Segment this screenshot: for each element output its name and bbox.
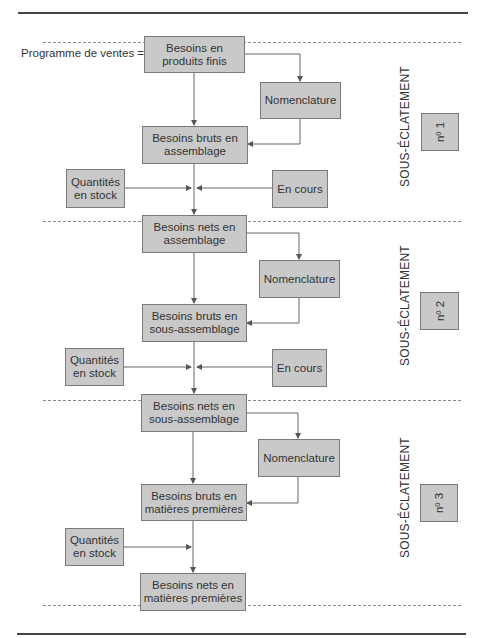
net-raw-materials-needs-box: Besoins nets enmatières premières xyxy=(140,573,246,611)
net-assembly-needs-box: Besoins nets enassemblage xyxy=(142,215,247,253)
in-progress-box-1: En cours xyxy=(272,170,328,208)
sub-explosion-label-3: SOUS-ÉCLATEMENT xyxy=(398,437,412,558)
net-subassembly-needs-box: Besoins nets ensous-assemblage xyxy=(141,394,247,432)
nomenclature-box-1: Nomenclature xyxy=(260,82,341,119)
stock-quantities-box-2: Quantitésen stock xyxy=(65,348,124,386)
gross-raw-materials-needs-box: Besoins bruts enmatières premières xyxy=(141,484,247,521)
in-progress-box-2: En cours xyxy=(272,349,327,387)
level-number-box-3: nº 3 xyxy=(420,484,458,522)
gross-assembly-needs-box: Besoins bruts enassemblage xyxy=(142,126,248,164)
finished-products-needs-box: Besoins enproduits finis xyxy=(144,36,245,73)
nomenclature-box-3: Nomenclature xyxy=(258,439,340,477)
sales-program-label: Programme de ventes = xyxy=(21,47,144,59)
level-number-box-2: nº 2 xyxy=(420,292,459,330)
sub-explosion-label-1: SOUS-ÉCLATEMENT xyxy=(398,66,412,187)
nomenclature-box-2: Nomenclature xyxy=(259,260,340,298)
level-number-box-1: nº 1 xyxy=(421,113,459,151)
stock-quantities-box-1: Quantitésen stock xyxy=(66,169,125,208)
gross-subassembly-needs-box: Besoins bruts ensous-assemblage xyxy=(142,304,247,342)
sub-explosion-label-2: SOUS-ÉCLATEMENT xyxy=(398,245,412,366)
stock-quantities-box-3: Quantitésen stock xyxy=(65,528,124,566)
